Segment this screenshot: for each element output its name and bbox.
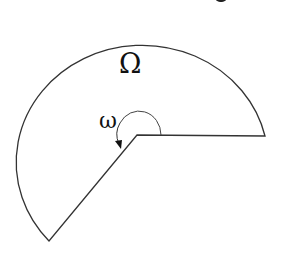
domain-label: Ω <box>119 50 141 77</box>
domain-figure <box>0 0 282 257</box>
angle-arc <box>120 111 161 135</box>
angle-label: ω <box>99 110 117 132</box>
diagram-canvas: Ω ω <box>0 0 282 257</box>
arrowhead-icon <box>115 140 122 149</box>
